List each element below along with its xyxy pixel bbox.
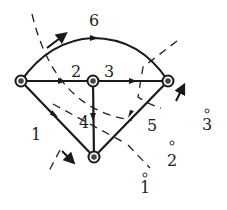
graph-diagram: 6 2 3 1 4 5 1 2 3 [0, 0, 227, 210]
cut-line-3 [138, 41, 177, 108]
edge-label-2: 2 [71, 62, 81, 81]
edge-label-4: 4 [79, 113, 89, 132]
edge-2-arrow [58, 78, 66, 84]
cut-arrow-2 [62, 151, 72, 161]
node-middle [88, 76, 99, 87]
node-right [163, 76, 174, 87]
cut-marker-2 [170, 141, 174, 145]
cut-arrow-3 [176, 87, 183, 101]
cut-label-2: 2 [167, 151, 177, 170]
node-left [16, 76, 27, 87]
cut-marker-1 [143, 173, 147, 177]
edge-4-arrow [90, 113, 96, 121]
edge-3-arrow [129, 78, 137, 84]
cut-marker-3 [205, 109, 209, 113]
edge-6-arrow [90, 35, 98, 41]
edge-label-5: 5 [147, 116, 157, 135]
cut-label-1: 1 [140, 178, 150, 197]
edge-label-1: 1 [31, 125, 41, 144]
edge-6 [21, 38, 168, 81]
edge-label-3: 3 [104, 62, 114, 81]
cut-line-1 [32, 14, 132, 171]
cut-label-3: 3 [202, 115, 212, 134]
node-bottom [89, 152, 100, 163]
edge-label-6: 6 [89, 11, 99, 30]
